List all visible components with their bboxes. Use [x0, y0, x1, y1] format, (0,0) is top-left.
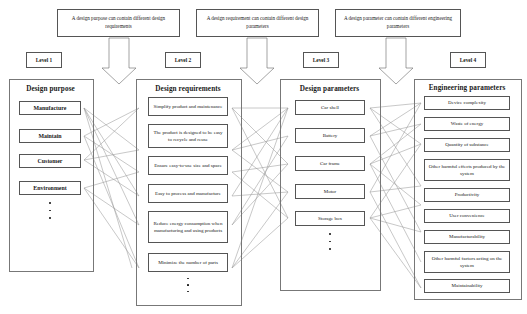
level-2-tag: Level 2	[165, 52, 201, 68]
note-parameter-engineering: A design parameter can contain different…	[335, 9, 461, 37]
design-purpose-item-environment[interactable]: Environment	[19, 181, 81, 195]
item-label: Minimize the number of parts	[158, 259, 218, 266]
design-parameters-item-car-shell[interactable]: Car shell	[295, 100, 365, 115]
ellipsis-dot	[329, 248, 331, 250]
ellipsis-dot	[49, 210, 51, 212]
item-label: The product is designed to be easy to re…	[151, 129, 225, 144]
design-requirements-title: Design requirements	[136, 85, 240, 93]
note-requirement-parameters: A design requirement can contain differe…	[196, 9, 319, 37]
ellipsis-dot	[49, 202, 51, 204]
note-purpose-requirements: A design purpose can contain different d…	[57, 9, 180, 37]
item-label: Reduce energy consumption when manufactu…	[151, 220, 225, 235]
engineering-parameters-item-other-harmful-factors[interactable]: Other harmful factors acting on the syst…	[424, 251, 510, 273]
down-arrow-icon-1	[102, 38, 136, 84]
note-text: A design parameter can contain different…	[339, 15, 457, 30]
item-label: Easy to process and manufacture	[155, 190, 221, 197]
item-label: Productivity	[455, 191, 480, 198]
design-parameters-title: Design parameters	[280, 85, 379, 93]
item-label: Other harmful factors acting on the syst…	[427, 255, 507, 270]
down-arrow-icons	[102, 38, 413, 84]
ellipsis-dot	[49, 217, 51, 219]
engineering-parameters-item-waste-of-energy[interactable]: Waste of energy	[424, 117, 510, 131]
ellipsis-dot	[187, 291, 188, 292]
design-purpose-ellipsis	[48, 202, 52, 219]
engineering-parameters-item-quantity-of-substance[interactable]: Quantity of substance	[424, 138, 510, 152]
design-requirements-item-simplify[interactable]: Simplify product and maintenance	[148, 97, 228, 116]
design-purpose-item-manufacture[interactable]: Manufacture	[19, 101, 81, 115]
down-arrow-icon-3	[379, 38, 413, 84]
item-label: Environment	[33, 184, 66, 193]
level-label: Level 1	[36, 57, 53, 63]
design-purpose-item-maintain[interactable]: Maintain	[19, 129, 81, 143]
design-parameters-item-battery[interactable]: Battery	[295, 128, 365, 143]
level-label: Level 4	[460, 57, 477, 63]
design-parameters-item-storage-box[interactable]: Storage box	[295, 211, 365, 226]
engineering-parameters-item-manufacturability[interactable]: Manufacturability	[424, 230, 510, 244]
design-requirements-item-size-space[interactable]: Ensure easy-to-use size and space	[148, 156, 228, 175]
design-requirements-item-recycle[interactable]: The product is designed to be easy to re…	[148, 124, 228, 148]
ellipsis-dot	[329, 241, 331, 243]
item-label: Manufacture	[34, 104, 67, 113]
item-label: Storage box	[318, 215, 342, 222]
design-purpose-item-customer[interactable]: Customer	[19, 154, 81, 168]
item-label: Manufacturability	[449, 233, 485, 240]
item-label: Battery	[323, 132, 338, 139]
level-4-tag: Level 4	[450, 52, 486, 68]
item-label: Maintainability	[452, 282, 483, 289]
ellipsis-dot	[329, 233, 331, 235]
engineering-parameters-item-device-complexity[interactable]: Device complexity	[424, 96, 510, 110]
level-label: Level 3	[313, 57, 330, 63]
note-text: A design requirement can contain differe…	[200, 15, 315, 30]
engineering-parameters-item-other-harmful-effects[interactable]: Other harmful effects produced by the sy…	[424, 159, 510, 181]
note-text: A design purpose can contain different d…	[61, 15, 176, 30]
down-arrow-icon-2	[240, 38, 274, 84]
design-purpose-title: Design purpose	[9, 85, 92, 93]
ellipsis-dot	[187, 284, 188, 285]
item-label: Quantity of substance	[445, 141, 489, 148]
item-label: Customer	[38, 157, 63, 166]
item-label: Ensure easy-to-use size and space	[154, 162, 222, 169]
diagram-canvas: A design purpose can contain different d…	[0, 0, 527, 314]
item-label: Waste of energy	[451, 120, 483, 127]
design-parameters-item-car-frame[interactable]: Car frame	[295, 156, 365, 171]
engineering-parameters-item-maintainability[interactable]: Maintainability	[424, 279, 510, 293]
item-label: Other harmful effects produced by the sy…	[427, 163, 507, 178]
level-label: Level 2	[175, 57, 192, 63]
design-requirements-ellipsis	[186, 278, 190, 292]
engineering-parameters-item-productivity[interactable]: Productivity	[424, 188, 510, 202]
item-label: User convenience	[449, 212, 485, 219]
item-label: Car shell	[321, 104, 339, 111]
ellipsis-dot	[187, 278, 188, 279]
item-label: Device complexity	[448, 99, 486, 106]
engineering-parameters-title: Engineering parameters	[414, 84, 520, 92]
design-requirements-item-reduce-energy[interactable]: Reduce energy consumption when manufactu…	[148, 211, 228, 243]
item-label: Car frame	[320, 160, 340, 167]
engineering-parameters-item-user-convenience[interactable]: User convenience	[424, 209, 510, 223]
item-label: Simplify product and maintenance	[153, 103, 222, 110]
design-parameters-ellipsis	[328, 233, 332, 250]
design-requirements-item-minimize-parts[interactable]: Minimize the number of parts	[148, 253, 228, 272]
level-3-tag: Level 3	[303, 52, 339, 68]
item-label: Motor	[324, 188, 337, 195]
item-label: Maintain	[38, 132, 61, 141]
level-1-tag: Level 1	[26, 52, 62, 68]
design-requirements-item-easy-process[interactable]: Easy to process and manufacture	[148, 184, 228, 203]
design-parameters-item-motor[interactable]: Motor	[295, 184, 365, 199]
